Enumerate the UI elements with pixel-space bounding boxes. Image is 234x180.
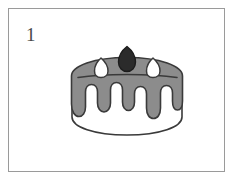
berry-icon	[119, 47, 136, 72]
cake-illustration	[64, 45, 190, 145]
cake-drawing	[64, 45, 190, 145]
illustration-panel: 1	[8, 8, 225, 172]
screenshot-root: 1	[0, 0, 234, 180]
panel-index-label: 1	[26, 25, 36, 44]
